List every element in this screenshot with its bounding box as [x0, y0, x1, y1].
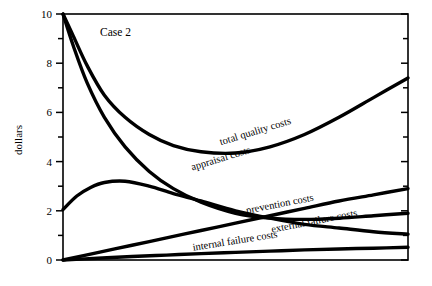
- y-axis-title: dollars: [12, 125, 24, 155]
- y-tick-label: 6: [47, 106, 53, 118]
- y-tick-label: 8: [47, 57, 53, 69]
- y-tick-label: 0: [47, 254, 53, 266]
- quality-cost-chart: 0246810 total quality costsappraisal cos…: [0, 0, 432, 286]
- y-tick-label: 2: [47, 205, 53, 217]
- y-tick-label: 4: [47, 156, 53, 168]
- case-annotation: Case 2: [100, 26, 131, 38]
- y-tick-label: 10: [41, 8, 53, 20]
- chart-figure: 0246810 total quality costsappraisal cos…: [0, 0, 432, 286]
